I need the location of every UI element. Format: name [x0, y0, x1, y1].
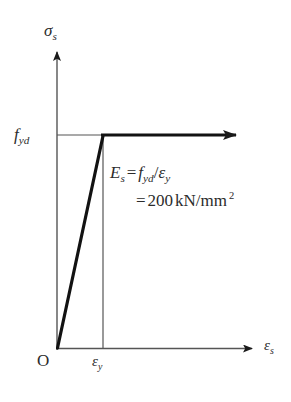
x-axis-label-subscript: s: [270, 345, 274, 356]
modulus-annotation-line2: =200kN/mm2: [110, 188, 234, 214]
origin-label: O: [37, 352, 49, 369]
modulus-unit-exponent: 2: [229, 190, 234, 201]
modulus-numerator-subscript: yd: [143, 172, 154, 184]
modulus-value: 200: [148, 191, 174, 210]
elastic-branch-line: [58, 136, 104, 348]
modulus-annotation-line1: Es=fyd/εy: [110, 163, 170, 182]
modulus-equals: =: [125, 163, 139, 182]
epsilon-y-subscript: y: [98, 361, 102, 372]
modulus-value-equals: =: [134, 191, 148, 210]
fyd-subscript: yd: [19, 134, 30, 146]
fyd-tick-label: fyd: [14, 126, 29, 147]
modulus-symbol: E: [110, 163, 120, 182]
modulus-unit: kN/mm: [173, 191, 229, 210]
modulus-denominator-subscript: y: [165, 172, 170, 184]
x-axis-label: εs: [264, 338, 274, 356]
modulus-annotation: Es=fyd/εy =200kN/mm2: [110, 160, 234, 214]
y-axis-label-subscript: s: [52, 30, 56, 42]
epsilon-y-tick-label: εy: [92, 354, 102, 372]
stress-strain-diagram: σs fyd O εy εs Es=fyd/εy =200kN/mm2: [0, 0, 291, 402]
y-axis-label: σs: [44, 22, 57, 43]
